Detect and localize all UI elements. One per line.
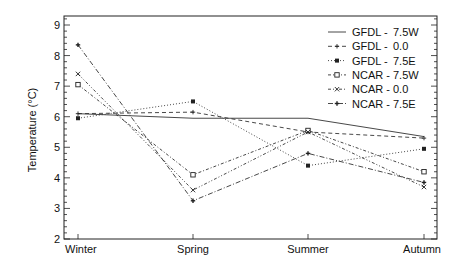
legend-lon: 0.0: [393, 40, 408, 52]
legend-lon: 7.5E: [393, 55, 416, 67]
y-tick-label: 9: [54, 19, 60, 31]
y-tick-label: 3: [54, 202, 60, 214]
y-tick-label: 5: [54, 141, 60, 153]
x-tick-label: Spring: [177, 243, 209, 255]
series-gfdl-7_5e: [76, 99, 426, 167]
y-tick-label: 6: [54, 111, 60, 123]
legend-model: GFDL -: [352, 55, 388, 67]
legend-item: GFDL -7.5E: [328, 55, 416, 67]
legend-model: NCAR -: [352, 69, 390, 81]
chart-series: [76, 43, 426, 203]
legend-model: GFDL -: [352, 26, 388, 38]
chart-legend: GFDL -7.5WGFDL -0.0GFDL -7.5ENCAR -7.5WN…: [328, 26, 419, 110]
legend-item: GFDL -0.0: [328, 40, 408, 52]
y-axis-label: Temperature (°C): [26, 88, 38, 172]
y-tick-label: 2: [54, 233, 60, 245]
legend-model: GFDL -: [352, 40, 388, 52]
x-tick-label: Winter: [65, 243, 97, 255]
legend-item: GFDL -7.5W: [328, 26, 419, 38]
legend-model: NCAR -: [352, 98, 390, 110]
y-tick-label: 4: [54, 172, 60, 184]
line-chart: 23456789WinterSpringSummerAutumn GFDL -7…: [0, 0, 462, 271]
legend-item: NCAR -0.0: [328, 83, 408, 95]
legend-lon: 7.5E: [393, 98, 416, 110]
legend-item: NCAR -7.5E: [328, 98, 416, 110]
legend-model: NCAR -: [352, 83, 390, 95]
legend-lon: 0.0: [393, 83, 408, 95]
y-tick-label: 8: [54, 50, 60, 62]
y-tick-label: 7: [54, 80, 60, 92]
legend-lon: 7.5W: [393, 26, 419, 38]
x-tick-label: Summer: [287, 243, 329, 255]
legend-item: NCAR -7.5W: [328, 69, 419, 81]
legend-lon: 7.5W: [393, 69, 419, 81]
series-ncar-7_5e: [76, 43, 426, 203]
x-tick-label: Autumn: [403, 243, 441, 255]
